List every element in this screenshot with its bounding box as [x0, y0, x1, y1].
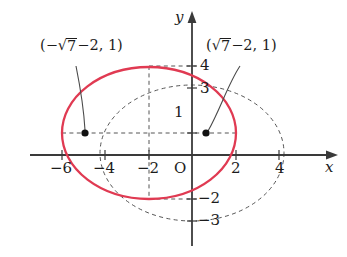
left-focus-prefix: (− [40, 37, 58, 53]
sqrt-group-left: √7 [58, 36, 77, 53]
left-focus-suffix: −2, 1) [77, 37, 122, 53]
y-tick-label--3: −3 [198, 213, 220, 228]
x-tick-label--2: −2 [137, 161, 159, 176]
y-axis-arrow [188, 11, 197, 23]
x-tick-label--4: −4 [93, 161, 115, 176]
x-axis-label: x [325, 160, 333, 175]
y-tick-label-3: 3 [200, 81, 210, 96]
x-tick-label-2: 2 [231, 161, 241, 176]
y-axis-label: y [175, 10, 183, 25]
left-leader-line [76, 66, 85, 130]
sqrt-group-right: √7 [212, 36, 231, 53]
right-focus-label: (√7−2, 1) [206, 36, 277, 53]
origin-label: O [174, 161, 186, 176]
y-tick-label--2: −2 [198, 191, 220, 206]
ellipse-diagram: (−√7−2, 1) (√7−2, 1) −6 −4 −2 2 4 O 4 3 … [0, 0, 347, 257]
y-tick-label-4: 4 [200, 58, 210, 73]
right-radicand: 7 [220, 38, 231, 54]
right-focus-suffix: −2, 1) [231, 37, 276, 53]
x-tick-label-4: 4 [275, 161, 285, 176]
left-focus-label: (−√7−2, 1) [40, 36, 123, 53]
y-tick-label-1: 1 [174, 105, 184, 120]
right-focus-point [202, 129, 209, 136]
left-radicand: 7 [66, 38, 77, 54]
left-focus-point [81, 129, 88, 136]
x-tick-label--6: −6 [50, 161, 72, 176]
